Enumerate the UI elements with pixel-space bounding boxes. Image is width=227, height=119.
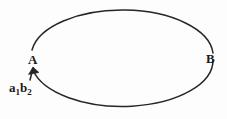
vertex-label-a: A <box>28 53 37 66</box>
ellipse-lower-arc <box>33 60 213 106</box>
ellipse-upper-arc <box>32 10 213 53</box>
annotation-label-a1b2: a1b2 <box>9 81 32 97</box>
annotation-b-subscript: 2 <box>27 87 32 97</box>
ellipse-diagram-figure: A B a1b2 <box>0 0 227 119</box>
arrow-head <box>29 67 40 75</box>
vertex-label-b: B <box>206 52 215 65</box>
